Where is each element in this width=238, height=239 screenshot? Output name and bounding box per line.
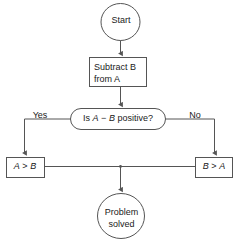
result-left-box-shape bbox=[7, 158, 45, 178]
flowchart-diagram: Start Subtract Bfrom A Is A − B positive… bbox=[0, 0, 238, 239]
edge-decision-yes bbox=[25, 119, 71, 153]
decision-stadium-shape bbox=[71, 109, 166, 130]
end-terminal-shape bbox=[98, 194, 145, 239]
edge-decision-no bbox=[166, 119, 215, 153]
process-box-shape bbox=[90, 58, 147, 87]
result-right-box-shape bbox=[196, 158, 233, 178]
flowchart-connectors-layer bbox=[0, 0, 238, 239]
start-terminal-shape bbox=[101, 4, 140, 41]
